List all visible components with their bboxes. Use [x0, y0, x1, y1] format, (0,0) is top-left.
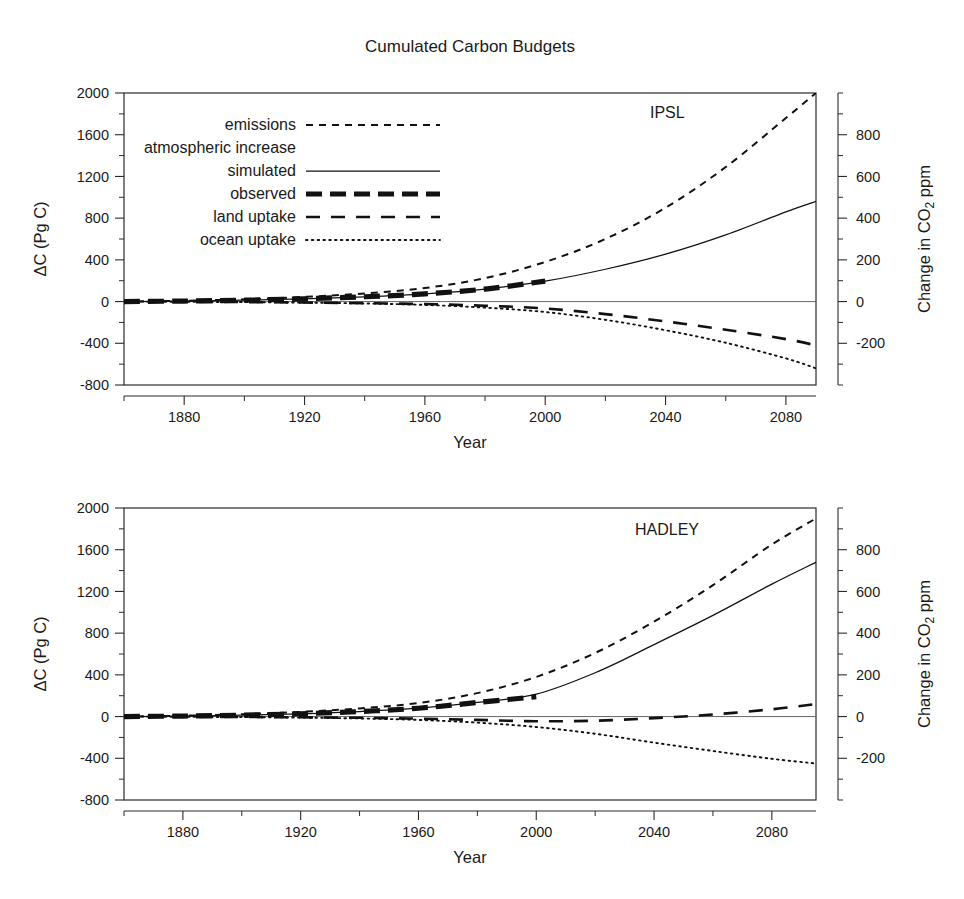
x-tick-label: 2080 — [770, 409, 802, 425]
y-axis-title-right-post: ppm — [915, 165, 933, 202]
y-tick-label-left: -800 — [80, 377, 109, 393]
x-tick-label: 1960 — [402, 824, 434, 840]
y-tick-label-right: 400 — [856, 210, 880, 226]
y-tick-label-right: -200 — [856, 750, 885, 766]
y-tick-label-left: 800 — [85, 210, 109, 226]
x-tick-label: 1880 — [168, 409, 200, 425]
x-axis-title: Year — [453, 848, 487, 866]
x-tick-label: 2000 — [529, 409, 561, 425]
panel-label: HADLEY — [635, 521, 699, 538]
y-axis-title-right-post: ppm — [915, 580, 933, 617]
x-axis-title: Year — [453, 433, 487, 451]
y-tick-label-right: 200 — [856, 252, 880, 268]
legend-label-4: land uptake — [213, 208, 296, 225]
y-tick-label-right: 800 — [856, 127, 880, 143]
y-tick-label-left: 0 — [101, 709, 109, 725]
y-tick-label-left: 1200 — [77, 169, 109, 185]
y-tick-label-left: 2000 — [77, 500, 109, 516]
legend-label-1: atmospheric increase — [144, 139, 296, 156]
x-tick-label: 2000 — [520, 824, 552, 840]
x-tick-label: 2080 — [756, 824, 788, 840]
y-tick-label-right: 200 — [856, 667, 880, 683]
y-tick-label-left: 0 — [101, 294, 109, 310]
y-tick-label-right: 600 — [856, 584, 880, 600]
x-tick-label: 1920 — [285, 824, 317, 840]
x-tick-label: 1880 — [167, 824, 199, 840]
y-tick-label-left: 400 — [85, 252, 109, 268]
y-tick-label-right: 600 — [856, 169, 880, 185]
y-tick-label-left: 1200 — [77, 584, 109, 600]
y-tick-label-right: 0 — [856, 294, 864, 310]
y-tick-label-right: 400 — [856, 625, 880, 641]
y-tick-label-left: -800 — [80, 792, 109, 808]
x-tick-label: 2040 — [649, 409, 681, 425]
panel-label: IPSL — [650, 104, 685, 121]
y-tick-label-left: 2000 — [77, 85, 109, 101]
y-axis-title-left: ΔC (Pg C) — [31, 201, 49, 276]
y-tick-label-left: 1600 — [77, 127, 109, 143]
legend-label-5: ocean uptake — [200, 231, 296, 248]
x-tick-label: 1960 — [409, 409, 441, 425]
legend-label-0: emissions — [225, 116, 296, 133]
y-tick-label-left: 800 — [85, 625, 109, 641]
y-axis-title-left: ΔC (Pg C) — [31, 616, 49, 691]
x-tick-label: 1920 — [288, 409, 320, 425]
y-axis-title-right-pre: Change in CO — [915, 208, 933, 313]
carbon-budget-figure: Cumulated Carbon Budgets 200016001200800… — [0, 0, 964, 899]
y-tick-label-left: 1600 — [77, 542, 109, 558]
y-tick-label-right: 800 — [856, 542, 880, 558]
legend-label-3: observed — [230, 185, 296, 202]
y-tick-label-left: -400 — [80, 335, 109, 351]
y-axis-title-right-pre: Change in CO — [915, 623, 933, 728]
x-tick-label: 2040 — [638, 824, 670, 840]
figure-title: Cumulated Carbon Budgets — [365, 37, 575, 56]
y-tick-label-right: -200 — [856, 335, 885, 351]
y-tick-label-left: 400 — [85, 667, 109, 683]
legend-label-2: simulated — [228, 162, 296, 179]
y-tick-label-left: -400 — [80, 750, 109, 766]
y-tick-label-right: 0 — [856, 709, 864, 725]
